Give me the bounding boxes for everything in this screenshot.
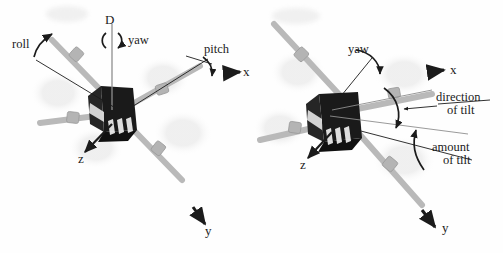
right-panel-drawing [252,0,503,253]
label-yaw: yaw [348,43,369,56]
panel-tilt: yaw x direction of tilt amount of tilt z… [252,0,503,253]
y-axis-arrow [422,210,435,227]
label-y-axis: y [205,224,212,238]
label-roll: roll [12,38,29,51]
label-y-axis: y [442,221,449,235]
label-yaw: yaw [128,34,149,47]
quadrotor-axes-figure: roll D yaw pitch x z y [0,0,503,253]
label-direction-of-tilt: direction of tilt [436,91,480,117]
label-x-axis: x [450,63,457,77]
label-z-axis: z [300,158,306,172]
label-amount-of-tilt: amount of tilt [432,141,470,167]
label-d-axis: D [105,13,114,27]
amount-of-tilt-line-2: of tilt [432,154,470,167]
x-axis-arrow [226,72,240,73]
panel-roll-pitch-yaw: roll D yaw pitch x z y [0,0,251,253]
direction-of-tilt-line-2: of tilt [436,104,480,117]
label-z-axis: z [78,152,84,166]
label-x-axis: x [243,65,250,79]
y-axis-arrow [193,207,205,224]
x-axis-arrow [430,70,444,72]
left-panel-drawing [0,0,251,253]
airframe-body [306,92,362,152]
label-pitch: pitch [204,43,229,56]
